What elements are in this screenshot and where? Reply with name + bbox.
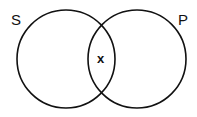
venn-diagram: S P x (0, 0, 197, 117)
set-s-label: S (11, 11, 21, 28)
intersection-label: x (97, 51, 105, 66)
set-p-label: P (178, 11, 188, 28)
